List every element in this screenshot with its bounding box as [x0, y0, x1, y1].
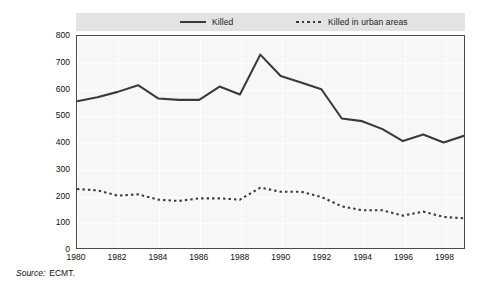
x-axis-tick-label: 1986 [189, 252, 208, 262]
source-label: Source: [16, 268, 45, 278]
series-line-killed-in-urban-areas [77, 188, 464, 219]
x-axis-tick-label: 1994 [353, 252, 372, 262]
y-axis-tick-labels: 0100200300400500600700800 [0, 0, 70, 287]
x-axis-tick-label: 1996 [394, 252, 413, 262]
dotted-line-swatch-icon [296, 17, 322, 27]
source-value: ECMT. [49, 268, 75, 278]
y-axis-tick-label: 600 [4, 84, 70, 94]
y-axis-tick-label: 200 [4, 191, 70, 201]
x-axis-tick-label: 1982 [107, 252, 126, 262]
x-axis-tick-label: 1988 [230, 252, 249, 262]
y-axis-tick-label: 700 [4, 57, 70, 67]
x-axis-tick-labels: 1980198219841986198819901992199419961998 [0, 252, 483, 266]
x-axis-tick-label: 1992 [312, 252, 331, 262]
chart-figure: Killed Killed in urban areas 01002003004… [0, 0, 483, 287]
series-line-killed [77, 55, 464, 143]
solid-line-swatch-icon [180, 17, 206, 27]
x-axis-tick-label: 1984 [148, 252, 167, 262]
legend-item-killed[interactable]: Killed [180, 17, 233, 27]
y-axis-tick-label: 500 [4, 110, 70, 120]
chart-legend: Killed Killed in urban areas [76, 13, 465, 31]
source-note: Source:ECMT. [16, 268, 75, 278]
x-axis-tick-label: 1990 [271, 252, 290, 262]
data-series-layer [77, 36, 464, 249]
y-axis-tick-label: 800 [4, 30, 70, 40]
y-axis-tick-label: 400 [4, 137, 70, 147]
legend-item-killed-in-urban-areas[interactable]: Killed in urban areas [296, 17, 408, 27]
plot-area [76, 35, 465, 249]
y-axis-tick-label: 100 [4, 217, 70, 227]
legend-label-killed: Killed [212, 17, 233, 27]
legend-label-killed-in-urban-areas: Killed in urban areas [328, 17, 408, 27]
y-axis-tick-label: 300 [4, 164, 70, 174]
x-axis-tick-label: 1998 [435, 252, 454, 262]
x-axis-tick-label: 1980 [67, 252, 86, 262]
